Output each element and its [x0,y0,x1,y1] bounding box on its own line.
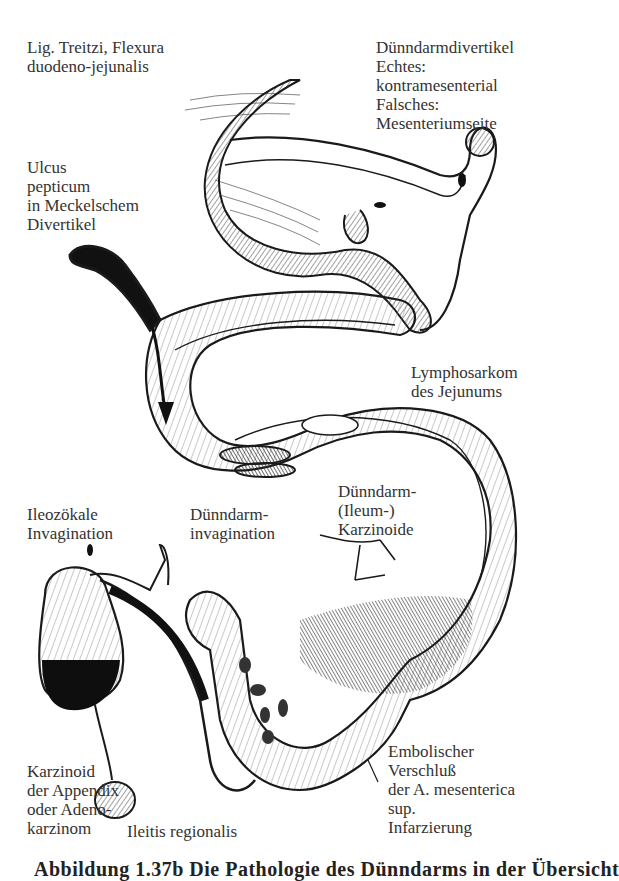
label-line: Ileitis regionalis [127,822,237,841]
label-line: oder Adeno- [27,800,119,819]
carcinoid-vessels [320,535,395,580]
label-line: der Appendix [27,781,119,800]
label-line: Verschluß [388,761,515,780]
label-appendix-carcinoid: Karzinoid der Appendix oder Adeno- karzi… [27,762,119,838]
label-line: kontramesenterial [376,76,514,95]
figure-caption: Abbildung 1.37b Die Pathologie des Dünnd… [34,858,619,881]
label-line: Invagination [27,524,113,543]
label-treitz-ligament: Lig. Treitzi, Flexura duodeno-jejunalis [27,38,164,76]
label-line: Ulcus [27,158,139,177]
label-ileum-carcinoids: Dünndarm- (Ileum-) Karzinoide [338,482,416,539]
meckel-diverticulum [70,246,160,330]
label-line: Karzinoide [338,520,416,539]
label-embolic-occlusion: Embolischer Verschluß der A. mesenterica… [388,742,515,837]
label-lymphosarcoma-jejunum: Lymphosarkom des Jejunums [411,363,518,401]
label-small-intestine-diverticulum: Dünndarmdivertikel Echtes: kontramesente… [376,38,514,133]
label-line: der A. mesenterica [388,780,515,799]
label-line: Dünndarm- [190,505,275,524]
label-line: Infarzierung [388,818,515,837]
label-line: Dünndarmdivertikel [376,38,514,57]
label-line: karzinom [27,819,119,838]
label-line: Falsches: [376,95,514,114]
label-line: in Meckelschem [27,196,139,215]
label-ileitis-regionalis: Ileitis regionalis [127,822,237,841]
label-line: des Jejunums [411,382,518,401]
label-ileocecal-invagination: Ileozökale Invagination [27,505,113,543]
label-line: Echtes: [376,57,514,76]
label-line: (Ileum-) [338,501,416,520]
label-line: Embolischer [388,742,515,761]
label-line: duodeno-jejunalis [27,57,164,76]
label-line: Divertikel [27,215,139,234]
label-line: Karzinoid [27,762,119,781]
label-small-intestine-invagination: Dünndarm- invagination [190,505,275,543]
mesentery-hatching [185,93,320,245]
label-line: sup. [388,799,515,818]
label-line: Mesenteriumseite [376,114,514,133]
label-line: Ileozökale [27,505,113,524]
false-diverticulum [344,210,368,243]
label-line: Lymphosarkom [411,363,518,382]
label-line: Dünndarm- [338,482,416,501]
label-peptic-ulcer-meckel: Ulcus pepticum in Meckelschem Divertikel [27,158,139,234]
label-line: pepticum [27,177,139,196]
label-line: Lig. Treitzi, Flexura [27,38,164,57]
label-line: invagination [190,524,275,543]
